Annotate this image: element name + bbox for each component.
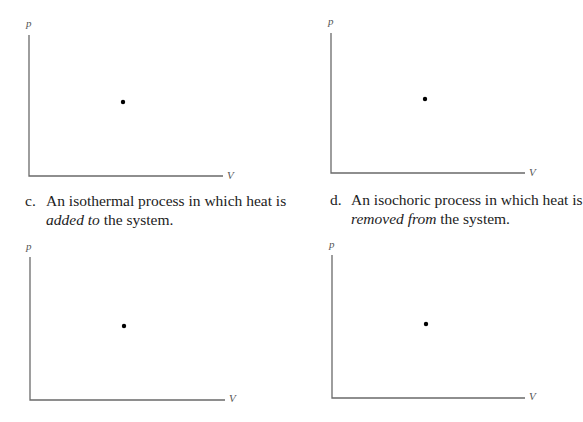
y-axis-label-c: p xyxy=(26,241,32,252)
pv-diagram-a xyxy=(29,35,223,176)
caption-d-line1: An isochoric process in which heat is xyxy=(351,191,583,208)
pv-diagram-d xyxy=(332,255,525,398)
state-point-a xyxy=(121,100,125,104)
caption-d: d.An isochoric process in which heat is … xyxy=(330,190,583,228)
x-axis-label-b: V xyxy=(529,167,536,178)
state-point-c xyxy=(122,324,126,328)
x-axis-label-a: V xyxy=(227,170,234,181)
caption-c: c.An isothermal process in which heat is… xyxy=(25,191,286,229)
y-axis-label-d: p xyxy=(329,239,335,250)
x-axis-label-d: V xyxy=(529,391,536,402)
caption-c-emphasis: added to xyxy=(46,211,100,228)
caption-c-rest: the system. xyxy=(100,211,174,228)
y-axis-label-b: p xyxy=(328,16,334,27)
pv-diagram-c xyxy=(30,257,225,400)
x-axis-label-c: V xyxy=(229,393,236,404)
axes-a xyxy=(29,35,223,176)
state-point-b xyxy=(423,97,427,101)
axes-c xyxy=(30,257,225,400)
caption-c-letter: c. xyxy=(25,191,46,210)
caption-d-letter: d. xyxy=(330,190,351,209)
axes-d xyxy=(332,255,525,398)
axes-b xyxy=(331,33,525,173)
state-point-d xyxy=(424,322,428,326)
caption-d-emphasis: removed from xyxy=(351,210,436,227)
y-axis-label-a: p xyxy=(26,18,32,29)
pv-diagram-b xyxy=(331,33,525,173)
caption-c-line1: An isothermal process in which heat is xyxy=(46,192,286,209)
caption-d-rest: the system. xyxy=(436,210,510,227)
